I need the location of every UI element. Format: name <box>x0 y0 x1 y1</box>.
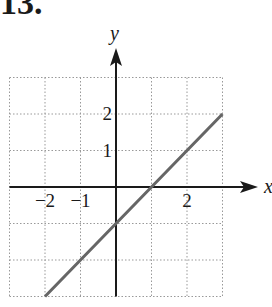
y-axis-label: y <box>108 22 119 45</box>
x-axis-label: x <box>263 175 272 197</box>
y-tick-label: 1 <box>103 140 113 161</box>
x-tick-label: 2 <box>182 190 192 211</box>
y-tick-label: 2 <box>103 103 113 124</box>
coordinate-plane: xy−2−1212 <box>0 0 272 307</box>
x-tick-label: −1 <box>70 190 90 211</box>
x-tick-label: −2 <box>35 190 55 211</box>
